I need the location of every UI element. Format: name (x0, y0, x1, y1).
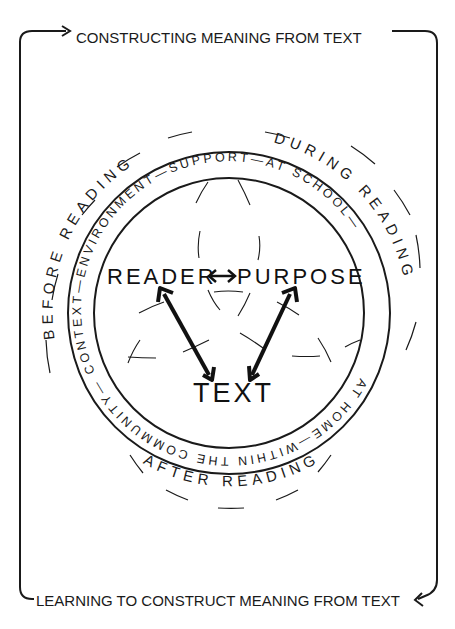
arc-mark (214, 291, 243, 292)
core-concepts: READER PURPOSE TEXT (107, 264, 366, 408)
arc-mark (208, 290, 220, 310)
arc-tick (46, 340, 50, 373)
arc-mark (139, 302, 164, 313)
purpose-text-arrow-icon (249, 288, 297, 380)
frame-top-right (392, 31, 437, 599)
top-label: CONSTRUCTING MEANING FROM TEXT (76, 29, 362, 46)
arc-mark (196, 182, 208, 203)
arc-tick (276, 490, 298, 500)
reader-label: READER (107, 264, 217, 289)
arc-mark (128, 340, 140, 363)
arc-mark (292, 356, 320, 357)
frame-left-side (20, 46, 34, 599)
frame-top-left-arrow (20, 31, 66, 46)
double-arrow-icon (209, 270, 235, 282)
arc-mark (345, 340, 360, 347)
arc-tick (351, 146, 375, 164)
reading-process-diagram: CONSTRUCTING MEANING FROM TEXT LEARNING … (0, 0, 455, 629)
arc-mark (318, 338, 331, 362)
arc-tick (166, 490, 188, 500)
arc-tick (406, 322, 416, 350)
arc-tick (168, 132, 192, 138)
bottom-label: LEARNING TO CONSTRUCT MEANING FROM TEXT (36, 592, 400, 609)
arc-mark (198, 231, 200, 258)
arc-tick (416, 235, 420, 268)
arc-mark (258, 236, 260, 260)
arc-mark (238, 180, 250, 205)
arc-tick (130, 455, 143, 473)
reader-text-arrow-icon (158, 288, 214, 380)
purpose-label: PURPOSE (237, 264, 366, 289)
arc-mark (238, 293, 250, 316)
arc-tick (394, 190, 410, 215)
arc-mark (240, 333, 263, 348)
context-ring: CONTEXT—ENVIRONMENT—SUPPORT—AT SCHOOL— A… (68, 150, 390, 474)
text-label: TEXT (193, 378, 274, 408)
arc-mark (128, 357, 156, 358)
